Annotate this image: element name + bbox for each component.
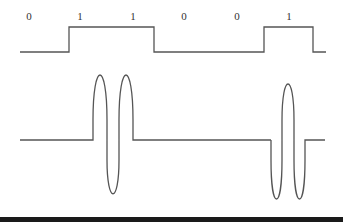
bit-labels: 0 1 1 0 0 1 xyxy=(26,10,292,22)
modulated-signal-left-segment xyxy=(20,75,271,194)
modulation-diagram: 0 1 1 0 0 1 xyxy=(0,0,343,222)
bit-label: 0 xyxy=(26,10,32,22)
bit-label: 1 xyxy=(77,10,83,22)
bit-label: 1 xyxy=(130,10,136,22)
bottom-rule xyxy=(0,217,343,222)
bit-label: 0 xyxy=(234,10,240,22)
digital-signal xyxy=(20,27,326,52)
bit-label: 1 xyxy=(286,10,292,22)
bit-label: 0 xyxy=(181,10,187,22)
modulated-signal-right-segment xyxy=(271,84,325,199)
